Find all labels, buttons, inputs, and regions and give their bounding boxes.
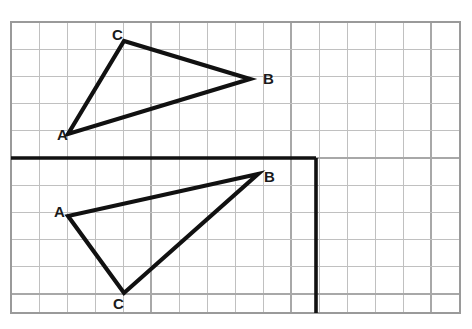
vertex-label-triangle-upper-B: B — [263, 70, 274, 87]
vertex-label-triangle-upper-A: A — [57, 126, 68, 143]
vertex-label-triangle-upper-C: C — [112, 26, 123, 43]
geometry-figure: ACBACB — [0, 0, 472, 329]
vertex-label-triangle-lower-A: A — [54, 203, 65, 220]
vertex-label-triangle-lower-C: C — [113, 295, 124, 312]
figure-canvas: ACBACB — [0, 0, 472, 329]
vertex-label-triangle-lower-B: B — [264, 168, 275, 185]
